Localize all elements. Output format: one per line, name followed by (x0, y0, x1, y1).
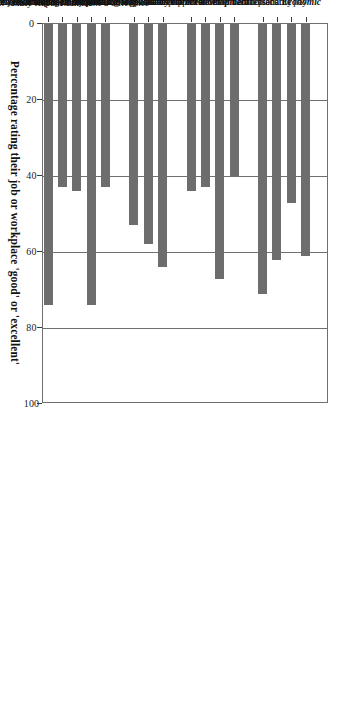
bar (287, 24, 296, 203)
category-tick (220, 17, 221, 22)
bar (101, 24, 110, 187)
category-tick (48, 17, 49, 22)
tick-label-100: 100 (19, 398, 45, 409)
bar (72, 24, 81, 191)
bar (129, 24, 138, 225)
category-tick (62, 17, 63, 22)
category-tick (77, 17, 78, 22)
category-tick (205, 17, 206, 22)
bar (258, 24, 267, 294)
bar (215, 24, 224, 279)
bar-series (43, 24, 327, 402)
bar (58, 24, 67, 187)
bar (187, 24, 196, 191)
category-tick (234, 17, 235, 22)
tick-label-60: 60 (19, 246, 45, 257)
tick-label-0: 0 (19, 18, 45, 29)
chart-stage: EconomicFair/reasonable payJob securityH… (0, 0, 346, 707)
category-tick (191, 17, 192, 22)
category-label: Overall fair treatment (0, 0, 49, 7)
category-tick (291, 17, 292, 22)
bar (230, 24, 239, 176)
bar-chart-figure: EconomicFair/reasonable payJob securityH… (0, 0, 346, 707)
category-tick (148, 17, 149, 22)
tick-label-20: 20 (19, 94, 45, 105)
tick-label-40: 40 (19, 170, 45, 181)
bar (87, 24, 96, 305)
category-tick (105, 17, 106, 22)
category-axis: EconomicFair/reasonable payJob securityH… (42, 0, 346, 23)
bar (272, 24, 281, 260)
category-tick (163, 17, 164, 22)
plot-area (42, 23, 328, 403)
axis-title: Percentage rating their job or workplace… (9, 23, 21, 403)
bar (201, 24, 210, 187)
category-tick (306, 17, 307, 22)
bar (301, 24, 310, 256)
bar (44, 24, 53, 305)
tick-label-80: 80 (19, 322, 45, 333)
category-tick (91, 17, 92, 22)
category-tick (134, 17, 135, 22)
category-tick (263, 17, 264, 22)
bar (144, 24, 153, 244)
category-tick (277, 17, 278, 22)
bar (158, 24, 167, 267)
